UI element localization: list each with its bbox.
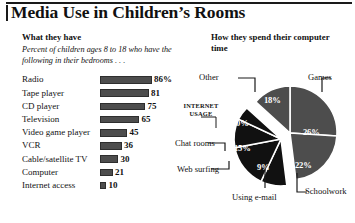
bar-label: Cable/satellite TV (22, 154, 88, 165)
bar-value: 65 (142, 114, 151, 125)
bar-label: Television (22, 114, 59, 125)
bar-row: CD player 75 (0, 100, 190, 113)
pie-value-other: 18% (264, 95, 281, 105)
bar-fill (100, 116, 139, 124)
bar-label: Tape player (22, 88, 64, 99)
page-title: Media Use in Children’s Rooms (11, 2, 245, 23)
bar-fill (100, 129, 127, 137)
bar-track (100, 182, 106, 190)
bar-chart-subtitle: Percent of children ages 8 to 18 who hav… (22, 44, 182, 67)
bar-fill (100, 142, 122, 150)
pie-value-web-surfing: 15% (234, 143, 251, 153)
pie-value-using-email: 9% (257, 162, 270, 172)
bar-label: CD player (22, 101, 59, 112)
leader-line-internet-usage (201, 117, 216, 128)
pie-label-web-surfing: Web surfing (177, 164, 219, 174)
bar-track (100, 155, 118, 163)
pie-label-using-email: Using e-mail (232, 192, 277, 202)
bar-fill (100, 76, 152, 84)
infographic-page: Media Use in Children’s Rooms What they … (0, 0, 355, 223)
bar-row: Tape player 81 (0, 87, 190, 100)
pie-label-games: Games (308, 72, 332, 82)
pie-label-chat-rooms: Chat rooms (175, 138, 215, 148)
bar-chart-heading: What they have (22, 32, 81, 42)
internet-usage-line1: INTERNET (184, 102, 219, 109)
pie-chart-heading: How they spend their computer time (211, 32, 331, 53)
leader-line-other (238, 78, 255, 92)
bar-fill (100, 169, 113, 177)
bar-chart: Radio 86% Tape player 81 CD player 75 Te… (0, 74, 190, 193)
bar-value: 30 (121, 154, 130, 165)
bar-value: 45 (130, 127, 139, 138)
bar-value: 81 (151, 88, 160, 99)
bar-value: 36 (124, 140, 133, 151)
bar-value: 86% (154, 74, 172, 85)
bar-fill (100, 182, 106, 190)
bar-label: Video game player (22, 127, 90, 138)
bar-track (100, 142, 122, 150)
bar-fill (100, 103, 145, 111)
pie-slice-schoolwork (290, 133, 337, 180)
pie-value-games: 26% (303, 127, 320, 137)
bar-label: Computer (22, 167, 58, 178)
bar-label: Radio (22, 74, 44, 85)
bar-track (100, 89, 149, 97)
bar-value: 75 (148, 101, 157, 112)
bar-track (100, 129, 127, 137)
bar-track (100, 116, 139, 124)
bar-row: Cable/satellite TV 30 (0, 153, 190, 166)
bar-fill (100, 155, 118, 163)
bar-fill (100, 89, 149, 97)
bar-label: Internet access (22, 180, 75, 191)
bar-track (100, 76, 152, 84)
bar-value: 10 (109, 180, 118, 191)
internet-usage-annotation: INTERNET USAGE (178, 102, 224, 118)
bar-row: Radio 86% (0, 74, 190, 87)
pie-chart: 26% 22% 9% 15% 10% 18% Other Games Schoo… (185, 55, 355, 223)
bar-track (100, 169, 113, 177)
bar-track (100, 103, 145, 111)
bar-row: Computer 21 (0, 166, 190, 179)
pie-value-schoolwork: 22% (295, 160, 312, 170)
bar-row: Video game player 45 (0, 127, 190, 140)
title-left-tick (6, 5, 8, 21)
pie-value-chat-rooms: 10% (232, 118, 249, 128)
pie-label-other: Other (199, 72, 219, 82)
pie-label-schoolwork: Schoolwork (305, 186, 347, 196)
internet-usage-line2: USAGE (189, 110, 212, 117)
bar-row: Television 65 (0, 114, 190, 127)
bar-value: 21 (115, 167, 124, 178)
bar-label: VCR (22, 140, 41, 151)
bar-row: Internet access 10 (0, 180, 190, 193)
bar-row: VCR 36 (0, 140, 190, 153)
